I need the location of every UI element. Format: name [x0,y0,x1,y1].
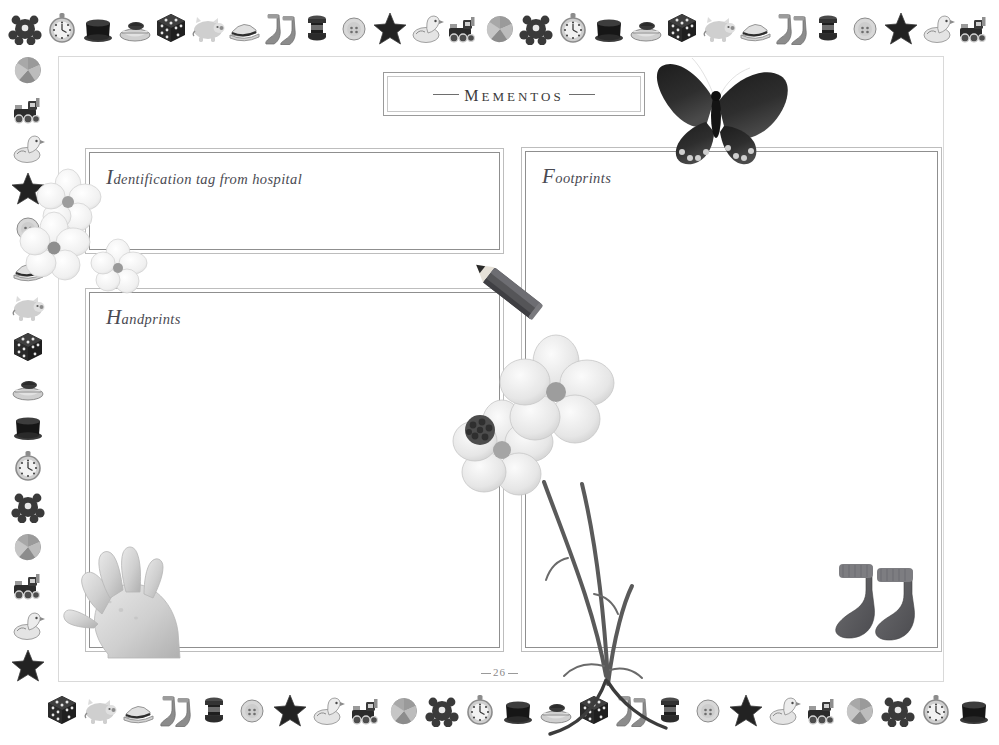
dice-icon [11,330,45,364]
spool-icon [653,693,687,727]
piggy-bank-icon [191,11,225,45]
teddy-bear-icon [425,693,459,727]
duck-icon [11,608,45,642]
ball-icon [483,11,517,45]
footprints-label: Footprints [542,164,921,189]
cap-icon [227,11,261,45]
piggy-bank-icon [11,290,45,324]
scrapbook-page: Mementos Identification tag from hospita… [0,0,999,745]
star-icon [729,693,763,727]
ball-icon [387,693,421,727]
teddy-bear-icon [8,11,42,45]
handprints-box[interactable]: Handprints [85,288,504,652]
pocket-watch-icon [45,11,79,45]
dice-icon [665,11,699,45]
button-icon [337,11,371,45]
train-icon [11,568,45,602]
button-icon [691,693,725,727]
teddy-bear-icon [11,489,45,523]
boat-icon [11,370,45,404]
dice-icon [45,693,79,727]
top-icon-border [8,6,991,50]
train-icon [805,693,839,727]
page-title-plate-inner: Mementos [387,76,641,112]
train-icon [349,693,383,727]
footprints-box-inner: Footprints [525,151,938,648]
boat-icon [539,693,573,727]
duck-icon [410,11,444,45]
button-icon [11,211,45,245]
button-icon [235,693,269,727]
cap-icon [121,693,155,727]
socks-icon [159,693,193,727]
spool-icon [300,11,334,45]
star-icon [373,11,407,45]
left-icon-border [6,52,50,682]
duck-icon [11,131,45,165]
bottom-icon-border [45,688,991,732]
duck-icon [311,693,345,727]
socks-icon [775,11,809,45]
page-title-plate: Mementos [383,72,645,116]
ball-icon [843,693,877,727]
duck-icon [921,11,955,45]
socks-icon [264,11,298,45]
cap-icon [738,11,772,45]
button-icon [848,11,882,45]
handprints-label: Handprints [106,305,483,330]
star-icon [884,11,918,45]
ball-icon [11,52,45,86]
socks-icon [615,693,649,727]
top-hat-icon [81,11,115,45]
star-icon [11,171,45,205]
page-number-value: 26 [493,666,506,678]
dice-icon [154,11,188,45]
pocket-watch-icon [11,449,45,483]
spool-icon [197,693,231,727]
handprints-box-inner: Handprints [89,292,500,648]
teddy-bear-icon [881,693,915,727]
top-hat-icon [592,11,626,45]
pocket-watch-icon [556,11,590,45]
identification-tag-box-inner: Identification tag from hospital [89,152,500,250]
footprints-box[interactable]: Footprints [521,147,942,652]
spool-icon [811,11,845,45]
cap-icon [11,251,45,285]
boat-icon [629,11,663,45]
pocket-watch-icon [463,693,497,727]
page-number-dash-right [508,673,518,674]
top-hat-icon [957,693,991,727]
title-dash-left [433,94,459,95]
star-icon [273,693,307,727]
page-number-dash-left [481,673,491,674]
piggy-bank-icon [83,693,117,727]
teddy-bear-icon [519,11,553,45]
page-title: Mementos [464,81,563,107]
pocket-watch-icon [919,693,953,727]
ball-icon [11,529,45,563]
top-hat-icon [11,409,45,443]
boat-icon [118,11,152,45]
top-hat-icon [501,693,535,727]
identification-tag-label: Identification tag from hospital [106,165,483,190]
train-icon [957,11,991,45]
duck-icon [767,693,801,727]
title-dash-right [569,94,595,95]
piggy-bank-icon [702,11,736,45]
page-number: 26 [0,666,999,678]
identification-tag-box[interactable]: Identification tag from hospital [85,148,504,254]
train-icon [446,11,480,45]
train-icon [11,92,45,126]
dice-icon [577,693,611,727]
